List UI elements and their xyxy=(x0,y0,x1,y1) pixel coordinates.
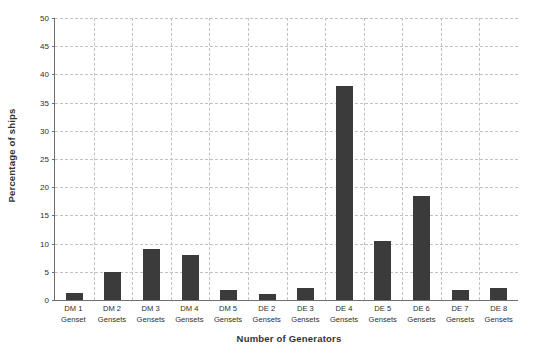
bar-slot xyxy=(248,18,287,300)
y-axis-tick-label: 40 xyxy=(40,70,49,79)
y-axis-tick-label: 45 xyxy=(40,42,49,51)
bar[interactable] xyxy=(336,86,353,300)
bar-slot xyxy=(94,18,133,300)
y-axis-tick-label: 35 xyxy=(40,98,49,107)
bar[interactable] xyxy=(143,249,160,300)
x-axis-tick-label: DM 4Gensets xyxy=(170,304,209,332)
bar-slot xyxy=(286,18,325,300)
bar[interactable] xyxy=(374,241,391,300)
y-axis-tick-label: 25 xyxy=(40,155,49,164)
bar-slot xyxy=(325,18,364,300)
y-axis-tick-mark xyxy=(52,300,55,301)
bar[interactable] xyxy=(413,196,430,300)
bar[interactable] xyxy=(297,288,314,300)
x-axis-tick-label: DE 4Gensets xyxy=(325,304,364,332)
bar[interactable] xyxy=(452,290,469,300)
x-axis-tick-label: DM 5Gensets xyxy=(209,304,248,332)
plot-canvas: 05101520253035404550 xyxy=(54,18,518,301)
x-axis-tick-label: DE 6Gensets xyxy=(402,304,441,332)
x-axis-tick-label: DE 2Gensets xyxy=(247,304,286,332)
y-axis-tick-label: 15 xyxy=(40,211,49,220)
y-axis-title: Percentage of ships xyxy=(0,0,22,310)
x-axis-tick-labels: DM 1GensetDM 2GensetsDM 3GensetsDM 4Gens… xyxy=(54,304,518,332)
bar[interactable] xyxy=(220,290,237,300)
y-axis-title-text: Percentage of ships xyxy=(6,108,17,202)
bar-slot xyxy=(441,18,480,300)
plot-area: 05101520253035404550 xyxy=(54,18,518,301)
x-axis-title: Number of Generators xyxy=(55,333,523,344)
bar[interactable] xyxy=(104,272,121,300)
y-axis-tick-label: 50 xyxy=(40,14,49,23)
x-axis-tick-label: DE 7Gensets xyxy=(441,304,480,332)
y-axis-tick-label: 20 xyxy=(40,183,49,192)
x-axis-tick-label: DE 3Gensets xyxy=(286,304,325,332)
x-axis-tick-label: DE 8Gensets xyxy=(479,304,518,332)
y-axis-tick-label: 5 xyxy=(45,267,49,276)
bar-slot xyxy=(402,18,441,300)
y-axis-tick-label: 30 xyxy=(40,126,49,135)
bar-slot xyxy=(132,18,171,300)
x-axis-tick-label: DE 5Gensets xyxy=(363,304,402,332)
y-axis-tick-label: 0 xyxy=(45,296,49,305)
bar-slot xyxy=(209,18,248,300)
bar-slot xyxy=(364,18,403,300)
y-axis-tick-label: 10 xyxy=(40,239,49,248)
bar-series xyxy=(55,18,518,300)
bar[interactable] xyxy=(490,288,507,300)
bar-chart-figure: Percentage of ships 05101520253035404550… xyxy=(0,0,533,354)
bar-slot xyxy=(55,18,94,300)
bar[interactable] xyxy=(66,293,83,300)
bar-slot xyxy=(479,18,518,300)
x-axis-tick-label: DM 1Genset xyxy=(54,304,93,332)
bar[interactable] xyxy=(259,294,276,300)
x-axis-tick-label: DM 2Gensets xyxy=(93,304,132,332)
x-axis-tick-label: DM 3Gensets xyxy=(131,304,170,332)
bar[interactable] xyxy=(182,255,199,300)
bar-slot xyxy=(171,18,210,300)
